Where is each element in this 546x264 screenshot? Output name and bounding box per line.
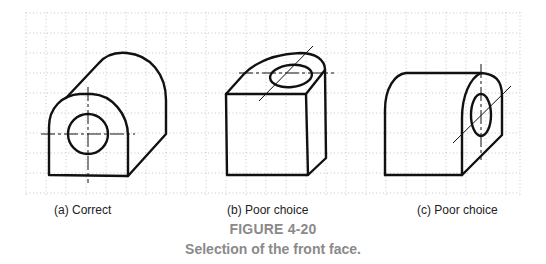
figure-number: FIGURE 4-20: [0, 221, 546, 237]
figure-drawing: [0, 0, 546, 200]
panel-b-poor-choice-sketch: [226, 53, 326, 175]
grid-background: [26, 12, 520, 196]
panel-a-centerlines: [41, 87, 135, 183]
panel-c-poor-choice-sketch: [385, 73, 502, 175]
caption-panel-a: (a) Correct: [54, 203, 111, 217]
panel-a-correct-sketch: [49, 53, 166, 176]
caption-panel-b: (b) Poor choice: [227, 203, 308, 217]
figure-title: Selection of the front face.: [0, 241, 546, 257]
caption-panel-c: (c) Poor choice: [417, 203, 498, 217]
